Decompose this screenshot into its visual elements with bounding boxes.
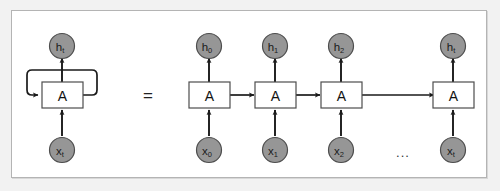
step-t-cell-label: A	[449, 88, 459, 104]
step-0-input-sub: 0	[208, 149, 212, 158]
step-2-cell-label: A	[337, 88, 347, 104]
unrolled-step-1-group: A h1 x1	[255, 34, 320, 163]
timestep-ellipsis: ...	[396, 145, 410, 160]
folded-cell-label: A	[58, 88, 68, 104]
step-0-cell-label: A	[205, 88, 215, 104]
step-1-output-sub: 1	[274, 45, 278, 54]
unrolled-step-0-group: A h0 x0	[189, 34, 254, 163]
unrolled-step-t-group: A ht xt	[433, 34, 474, 163]
step-2-input-sub: 2	[340, 149, 344, 158]
folded-rnn-group: A ht xt	[27, 34, 97, 163]
diagram-screenshot: A ht xt = A h0	[0, 0, 500, 191]
step-2-output-sub: 2	[340, 45, 344, 54]
equals-sign: =	[143, 86, 153, 105]
rnn-unrolled-figure: A ht xt = A h0	[0, 0, 500, 191]
step-1-cell-label: A	[271, 88, 281, 104]
unrolled-step-2-group: A h2 x2	[321, 34, 434, 163]
step-0-output-sub: 0	[208, 45, 212, 54]
step-1-input-sub: 1	[274, 149, 278, 158]
